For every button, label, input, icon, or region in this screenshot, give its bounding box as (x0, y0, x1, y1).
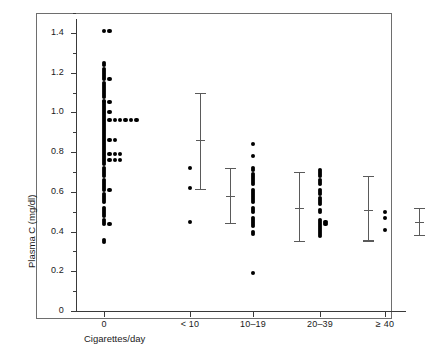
data-point (113, 138, 117, 142)
data-point (383, 216, 387, 220)
y-axis-minor-tick (73, 291, 77, 292)
error-bar-stem (368, 176, 369, 242)
y-axis-minor-tick (73, 251, 77, 252)
scatter-plot: 00.20.40.60.81.01.21.40< 1010–1920–39≥ 4… (0, 0, 430, 344)
error-bar-mean-marker (226, 196, 235, 197)
data-point (251, 142, 255, 146)
x-axis-tick-label: 10–19 (218, 319, 288, 329)
axis-line (76, 19, 77, 312)
data-point (188, 186, 192, 190)
x-axis-title: Cigarettes/day (84, 333, 145, 344)
data-point (251, 200, 255, 204)
data-point (102, 222, 106, 226)
error-bar-mean-marker (415, 222, 424, 223)
error-bar-cap-lower (195, 189, 206, 190)
error-bar (294, 172, 305, 242)
data-point (107, 152, 111, 156)
figure-container: 00.20.40.60.81.01.21.40< 1010–1920–39≥ 4… (0, 0, 430, 344)
error-bar-cap-lower (414, 235, 425, 236)
error-bar (195, 93, 206, 190)
y-axis-tick-label: 0.6 (38, 186, 64, 196)
data-point (318, 234, 322, 238)
error-bar-cap-lower (225, 223, 236, 224)
y-axis-tick (71, 33, 76, 34)
y-axis-tick-label: 1.0 (38, 106, 64, 116)
y-axis-tick (71, 271, 76, 272)
data-point (134, 118, 138, 122)
data-point (188, 166, 192, 170)
error-bar-cap-lower (294, 241, 305, 242)
data-point (118, 118, 122, 122)
x-axis-tick (253, 312, 254, 317)
data-point (251, 232, 255, 236)
data-point (113, 118, 117, 122)
data-point (251, 224, 255, 228)
data-point (107, 29, 111, 33)
data-point (107, 158, 111, 162)
error-bar-mean-marker (295, 208, 304, 209)
data-point (107, 188, 111, 192)
data-point (107, 138, 111, 142)
data-point (251, 271, 255, 275)
data-point (188, 220, 192, 224)
x-axis-tick (190, 312, 191, 317)
y-axis-tick-label: 1.2 (38, 67, 64, 77)
x-axis-tick-label: < 10 (155, 319, 225, 329)
y-axis-tick (71, 112, 76, 113)
y-axis-tick-label: 1.4 (38, 27, 64, 37)
data-point (107, 100, 111, 104)
y-axis-tick (71, 152, 76, 153)
data-point (383, 210, 387, 214)
data-point (107, 222, 111, 226)
x-axis-tick (320, 312, 321, 317)
error-bar-mean-marker (196, 140, 205, 141)
data-point (107, 77, 111, 81)
data-point (251, 210, 255, 214)
error-bar-cap-upper (225, 168, 236, 169)
data-point (102, 240, 106, 244)
data-point (118, 158, 122, 162)
y-axis-minor-tick (73, 53, 77, 54)
error-bar-mean-marker (364, 210, 373, 211)
y-axis-tick (71, 73, 76, 74)
data-point (107, 118, 111, 122)
data-point (123, 118, 127, 122)
y-axis-tick-label: 0.2 (38, 265, 64, 275)
x-axis-tick-label: 0 (69, 319, 139, 329)
y-axis-minor-tick (73, 132, 77, 133)
error-bar-cap-lower (363, 240, 374, 241)
data-point (318, 202, 322, 206)
data-point (251, 154, 255, 158)
x-axis-tick-label: ≥ 40 (350, 319, 420, 329)
data-point (113, 158, 117, 162)
data-point (129, 118, 133, 122)
x-axis-tick (104, 312, 105, 317)
x-axis-tick (385, 312, 386, 317)
y-axis-tick (71, 311, 76, 312)
y-axis-minor-tick (73, 13, 77, 14)
data-point (102, 200, 106, 204)
error-bar-cap-upper (294, 172, 305, 173)
y-axis-minor-tick (73, 93, 77, 94)
y-axis-tick (71, 232, 76, 233)
data-point (107, 110, 111, 114)
data-point (251, 182, 255, 186)
x-axis-tick-label: 20–39 (285, 319, 355, 329)
error-bar (225, 168, 236, 224)
error-bar (363, 176, 374, 242)
error-bar-cap-upper (414, 208, 425, 209)
data-point (113, 152, 117, 156)
data-point (118, 152, 122, 156)
data-point (383, 228, 387, 232)
y-axis-tick-label: 0.4 (38, 226, 64, 236)
error-bar (414, 208, 425, 236)
error-bar-cap-upper (363, 176, 374, 177)
y-axis-tick-label: 0 (38, 305, 64, 315)
y-axis-title: Plasma C (mg/dl) (26, 195, 37, 268)
y-axis-tick (71, 192, 76, 193)
data-point (318, 182, 322, 186)
data-point (323, 222, 327, 226)
y-axis-tick-label: 0.8 (38, 146, 64, 156)
axis-line (76, 311, 406, 312)
error-bar-cap-upper (195, 93, 206, 94)
